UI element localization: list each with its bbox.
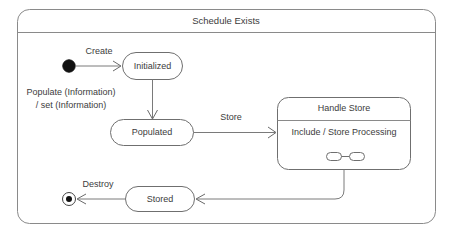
transition-store-label: Store — [220, 112, 242, 122]
frame-title: Schedule Exists — [192, 15, 260, 26]
initial-state-circle — [63, 60, 75, 72]
submachine-icon-right-box — [350, 153, 365, 161]
submachine-icon-left-box — [327, 153, 342, 161]
state-stored-label: Stored — [147, 194, 174, 204]
state-initialized-label: Initialized — [134, 61, 172, 71]
state-populated[interactable]: Populated — [111, 120, 194, 146]
final-state-inner-dot — [66, 196, 72, 202]
state-diagram-canvas: Schedule Exists Create Initialized Popul… — [0, 0, 452, 237]
composite-state-handle-store[interactable]: Handle Store Include / Store Processing — [278, 98, 411, 170]
composite-state-body: Include / Store Processing — [291, 127, 396, 137]
state-stored[interactable]: Stored — [126, 187, 195, 212]
transition-populate-label-line2: / set (Information) — [36, 100, 107, 110]
composite-state-title: Handle Store — [318, 103, 371, 113]
final-state-node[interactable] — [63, 193, 76, 206]
transition-destroy-label: Destroy — [82, 179, 114, 189]
state-populated-label: Populated — [132, 127, 173, 137]
transition-populate-label-line1: Populate (Information) — [26, 87, 115, 97]
state-machine-diagram: Schedule Exists Create Initialized Popul… — [0, 0, 452, 237]
transition-create-label: Create — [85, 46, 112, 56]
state-initialized[interactable]: Initialized — [123, 53, 183, 80]
initial-state-node[interactable] — [63, 60, 75, 72]
